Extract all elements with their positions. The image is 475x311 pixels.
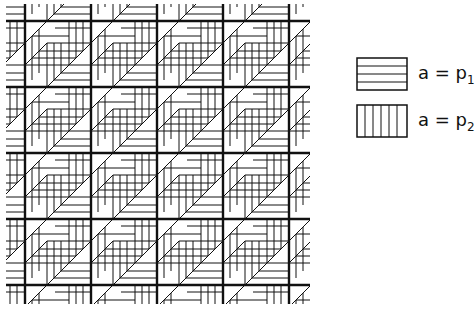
legend-label-p2: a = p2	[418, 109, 475, 134]
tiling-diagram	[0, 0, 330, 311]
legend-label-p1: a = p1	[418, 62, 475, 87]
legend-item-p2: a = p2	[356, 104, 475, 138]
vertical-hatch-swatch-icon	[356, 104, 408, 138]
legend-item-p1: a = p1	[356, 57, 475, 91]
horizontal-hatch-swatch-icon	[356, 57, 408, 91]
